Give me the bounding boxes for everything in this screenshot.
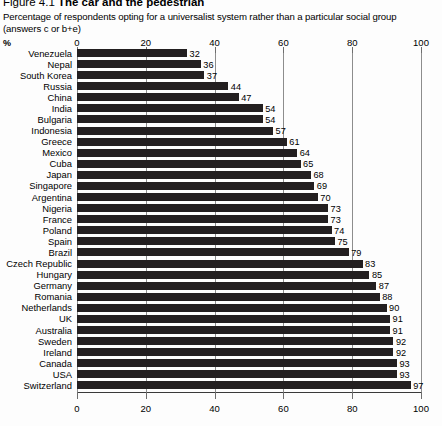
x-axis-bottom-tick-label: 40 [200,403,230,414]
bar [77,293,380,301]
bar [77,149,297,157]
category-label: Indonesia [0,126,72,135]
bar [77,248,349,256]
category-label: Venezuela [0,49,72,58]
bar-value-label: 32 [190,50,200,59]
figure-title: Figure 4.1 The car and the pedestrian [3,0,439,8]
category-label: Canada [0,359,72,368]
category-label: Nepal [0,60,72,69]
bar [77,138,287,146]
subtitle-line-1: Percentage of respondents opting for a u… [3,11,397,22]
category-label: Switzerland [0,381,72,390]
x-axis-bottom-tick [215,392,216,399]
category-label: France [0,215,72,224]
category-label: Nigeria [0,204,72,213]
figure-number: Figure 4.1 [3,0,55,8]
category-label: USA [0,370,72,379]
bar-value-label: 37 [207,72,217,81]
bar-value-label: 57 [276,127,286,136]
category-label: Netherlands [0,303,72,312]
bar-value-label: 73 [331,205,341,214]
bar-value-label: 92 [396,349,406,358]
x-axis-bottom-tick [146,392,147,399]
figure-container: Figure 4.1 The car and the pedestrian Pe… [0,0,442,426]
category-label: Argentina [0,193,72,202]
category-label: Ireland [0,348,72,357]
category-label: Australia [0,326,72,335]
figure-subtitle: Percentage of respondents opting for a u… [3,11,439,34]
bar [77,226,332,234]
bar-value-label: 64 [300,149,310,158]
gridline-100 [421,48,422,392]
x-axis-bottom-tick [77,392,78,399]
category-label: Romania [0,292,72,301]
category-label: Poland [0,226,72,235]
bar-value-label: 75 [338,238,348,247]
x-axis-top-tick [421,47,422,53]
bar-value-label: 54 [265,105,275,114]
bar-value-label: 88 [382,293,392,302]
category-label: Singapore [0,181,72,190]
bar [77,237,335,245]
x-axis-bottom-tick [283,392,284,399]
bar [77,104,263,112]
bar-value-label: 92 [396,338,406,347]
x-axis-bottom-tick-label: 0 [62,403,92,414]
bar-value-label: 65 [303,160,313,169]
bar [77,60,201,68]
bar-value-label: 85 [372,271,382,280]
percent-axis-symbol: % [3,38,11,48]
bar [77,204,328,212]
x-axis-bottom-tick-label: 20 [131,403,161,414]
category-label: India [0,104,72,113]
category-label: Russia [0,82,72,91]
bar-value-label: 61 [289,138,299,147]
bar [77,348,393,356]
bar [77,49,187,57]
bar [77,315,390,323]
bar [77,359,397,367]
category-label: Bulgaria [0,115,72,124]
bar-value-label: 69 [317,182,327,191]
subtitle-line-2: (answers c or b+e) [3,23,81,34]
category-label: Brazil [0,248,72,257]
bar-value-label: 87 [379,282,389,291]
bar-value-label: 79 [351,249,361,258]
bar-value-label: 91 [393,315,403,324]
bar-value-label: 83 [365,260,375,269]
category-label: Mexico [0,148,72,157]
x-axis-top-tick [352,47,353,53]
bar-value-label: 93 [399,371,409,380]
bar [77,271,369,279]
category-label: Cuba [0,159,72,168]
bar-value-label: 70 [320,194,330,203]
category-label: China [0,93,72,102]
bar [77,304,387,312]
bar [77,337,393,345]
bar [77,115,263,123]
bar-value-label: 36 [203,61,213,70]
bar-value-label: 47 [241,94,251,103]
bar [77,127,273,135]
bar [77,282,376,290]
category-label: Sweden [0,337,72,346]
category-label: Hungary [0,270,72,279]
category-label: Greece [0,137,72,146]
bar [77,326,390,334]
bar [77,260,363,268]
x-axis-bottom-tick-label: 60 [268,403,298,414]
bar-value-label: 91 [393,327,403,336]
x-axis-bottom-tick-label: 80 [337,403,367,414]
figure-name: The car and the pedestrian [58,0,204,8]
category-label: Czech Republic [0,259,72,268]
bar-value-label: 97 [413,382,423,391]
bar [77,215,328,223]
x-axis-line [77,392,422,393]
category-label: UK [0,314,72,323]
bar [77,171,311,179]
bar [77,370,397,378]
bar [77,381,411,389]
bar-value-label: 74 [334,227,344,236]
bar [77,193,318,201]
category-label: South Korea [0,71,72,80]
